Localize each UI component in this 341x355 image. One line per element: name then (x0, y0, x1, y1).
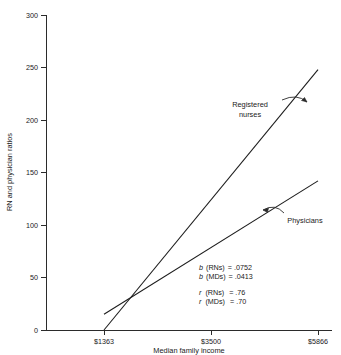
annotation-registered-nurses-line2: nurses (239, 110, 261, 119)
stat-group-b-mds: (MDs) (206, 272, 226, 281)
stat-row-b-mds: b(MDs)= .0413 (199, 272, 253, 281)
stat-row-r-mds: r(MDs)= .70 (199, 297, 246, 306)
y-tick-label-150: 150 (26, 168, 38, 177)
y-tick-label-200: 200 (26, 116, 38, 125)
registered-nurses-arrowhead-icon (302, 98, 308, 103)
y-tick-label-50: 50 (30, 273, 38, 282)
stat-value-b-mds: = .0413 (229, 272, 253, 281)
stat-group-b-rns: (RNs) (206, 263, 225, 272)
stat-value-b-rns: = .0752 (228, 263, 252, 272)
y-tick-label-100: 100 (26, 221, 38, 230)
stat-row-b-rns: b(RNs)= .0752 (199, 263, 252, 272)
y-tick-label-0: 0 (34, 326, 38, 335)
stat-value-r-rns: = .76 (229, 288, 245, 297)
stat-symbol-b-rns: b (199, 263, 203, 272)
stat-row-r-rns: r(RNs)= .76 (199, 288, 245, 297)
stat-group-r-rns: (RNs) (205, 288, 224, 297)
x-tick-label-1363: $1363 (94, 337, 114, 346)
x-axis-title: Median family income (153, 346, 224, 355)
stat-symbol-b-mds: b (199, 272, 203, 281)
x-tick-label-5866: $5866 (308, 337, 328, 346)
x-tick-label-3500: $3500 (201, 337, 221, 346)
y-tick-label-250: 250 (26, 63, 38, 72)
line-chart-canvas: 0 50 100 150 200 250 300 $1363 $3500 $58… (0, 0, 341, 355)
stat-value-r-mds: = .70 (230, 297, 246, 306)
y-tick-label-300: 300 (26, 11, 38, 20)
y-axis-title: RN and physician ratios (5, 133, 14, 211)
stat-symbol-r-mds: r (199, 297, 202, 306)
stat-symbol-r-rns: r (199, 288, 202, 297)
annotation-registered-nurses-line1: Registered (232, 100, 268, 109)
annotation-physicians-line1: Physicians (287, 216, 323, 225)
chart-figure: 0 50 100 150 200 250 300 $1363 $3500 $58… (0, 0, 341, 355)
stat-group-r-mds: (MDs) (205, 297, 225, 306)
